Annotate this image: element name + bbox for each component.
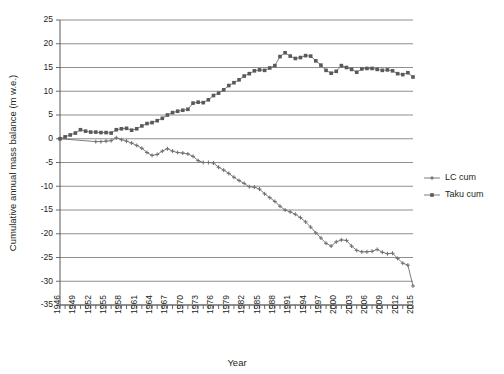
data-point-marker xyxy=(242,74,246,78)
data-point-marker xyxy=(63,135,67,139)
data-point-marker xyxy=(186,108,190,112)
data-point-marker xyxy=(304,54,308,58)
data-point-marker xyxy=(401,73,405,77)
series-lc-cum xyxy=(58,136,415,288)
y-tick-label: -5 xyxy=(45,157,53,167)
data-point-marker xyxy=(89,130,93,134)
data-point-marker xyxy=(145,122,149,126)
x-tick-label: 1988 xyxy=(267,295,277,314)
data-point-marker xyxy=(104,131,108,135)
x-tick-label: 1979 xyxy=(221,295,231,314)
data-point-marker xyxy=(58,137,62,141)
y-tick-label: 0 xyxy=(48,133,53,143)
y-tick-label: 5 xyxy=(48,109,53,119)
legend-label: LC cum xyxy=(445,172,476,182)
x-tick-label: 1967 xyxy=(159,295,169,314)
x-tick-label: 2012 xyxy=(390,295,400,314)
x-tick-label: 1961 xyxy=(129,295,139,314)
data-point-marker xyxy=(391,69,395,73)
data-point-marker xyxy=(340,64,344,68)
x-tick-label: 1970 xyxy=(175,295,185,314)
data-point-marker xyxy=(166,113,170,117)
data-point-marker xyxy=(319,63,323,67)
data-point-marker xyxy=(355,70,359,74)
x-tick-label: 1973 xyxy=(190,295,200,314)
data-point-marker xyxy=(329,71,333,75)
y-tick-label: -30 xyxy=(41,276,54,286)
data-point-marker xyxy=(155,119,159,123)
y-tick-label: 15 xyxy=(44,62,54,72)
chart-legend: LC cumTaku cum xyxy=(424,172,484,199)
data-point-marker xyxy=(217,91,221,95)
data-point-marker xyxy=(222,88,226,92)
data-point-marker xyxy=(263,69,267,73)
data-point-marker xyxy=(176,109,180,113)
data-point-marker xyxy=(201,101,205,105)
data-point-marker xyxy=(288,54,292,58)
data-point-marker xyxy=(253,69,257,73)
data-point-marker xyxy=(396,72,400,76)
data-series xyxy=(58,51,415,288)
data-point-marker xyxy=(114,128,118,132)
data-point-marker xyxy=(120,127,124,131)
x-tick-label: 1997 xyxy=(313,295,323,314)
data-point-marker xyxy=(365,67,369,71)
data-point-marker xyxy=(314,59,318,63)
y-axis-title: Cumulative annual mass balance (m w.e.) xyxy=(7,75,18,251)
data-point-marker xyxy=(375,68,379,72)
data-point-marker xyxy=(324,69,328,73)
data-point-marker xyxy=(370,67,374,71)
data-point-marker xyxy=(94,130,98,134)
data-point-marker xyxy=(247,72,251,76)
data-point-marker xyxy=(196,100,200,104)
series-line xyxy=(60,53,413,139)
y-tick-label: 10 xyxy=(44,86,54,96)
data-point-marker xyxy=(278,55,282,59)
legend-label: Taku cum xyxy=(445,189,484,199)
data-point-marker xyxy=(411,75,415,79)
data-point-marker xyxy=(125,127,129,131)
x-tick-label: 1952 xyxy=(83,295,93,314)
x-tick-label: 2009 xyxy=(374,295,384,314)
data-point-marker xyxy=(283,51,287,55)
series-taku-cum xyxy=(58,51,415,141)
data-point-marker xyxy=(135,127,139,131)
data-point-marker xyxy=(150,121,154,125)
y-tick-label: -10 xyxy=(41,181,54,191)
x-tick-label: 2015 xyxy=(405,295,415,314)
x-tick-label: 1958 xyxy=(113,295,123,314)
x-tick-label: 2006 xyxy=(359,295,369,314)
data-point-marker xyxy=(258,68,262,72)
data-point-marker xyxy=(79,128,83,132)
data-point-marker xyxy=(84,129,88,133)
x-tick-label: 1976 xyxy=(205,295,215,314)
cumulative-mass-balance-chart: 2520151050-5-10-15-20-25-30-35 194619491… xyxy=(0,0,504,374)
grid-lines xyxy=(60,20,413,305)
data-point-marker xyxy=(386,68,390,72)
data-point-marker xyxy=(140,124,144,128)
data-point-marker xyxy=(273,64,277,68)
x-tick-label: 1949 xyxy=(67,295,77,314)
data-point-marker xyxy=(227,84,231,88)
data-point-marker xyxy=(232,81,236,85)
data-point-marker xyxy=(345,66,349,70)
x-tick-label: 1994 xyxy=(298,295,308,314)
x-tick-label: 1982 xyxy=(236,295,246,314)
data-point-marker xyxy=(181,108,185,112)
data-point-marker xyxy=(237,78,241,82)
y-tick-label: -15 xyxy=(41,204,54,214)
data-point-marker xyxy=(406,71,410,75)
x-tick-label: 1964 xyxy=(144,295,154,314)
chart-figure: 2520151050-5-10-15-20-25-30-35 194619491… xyxy=(0,0,504,374)
data-point-marker xyxy=(309,54,313,58)
data-point-marker xyxy=(360,67,364,71)
data-point-marker xyxy=(299,56,303,60)
data-point-marker xyxy=(212,94,216,98)
data-point-marker xyxy=(74,131,78,135)
data-point-marker xyxy=(207,98,211,102)
data-point-marker xyxy=(268,66,272,70)
x-tick-label: 1991 xyxy=(282,295,292,314)
x-axis-title: Year xyxy=(227,357,246,368)
y-tick-label: 20 xyxy=(44,38,54,48)
y-tick-label: -20 xyxy=(41,228,54,238)
